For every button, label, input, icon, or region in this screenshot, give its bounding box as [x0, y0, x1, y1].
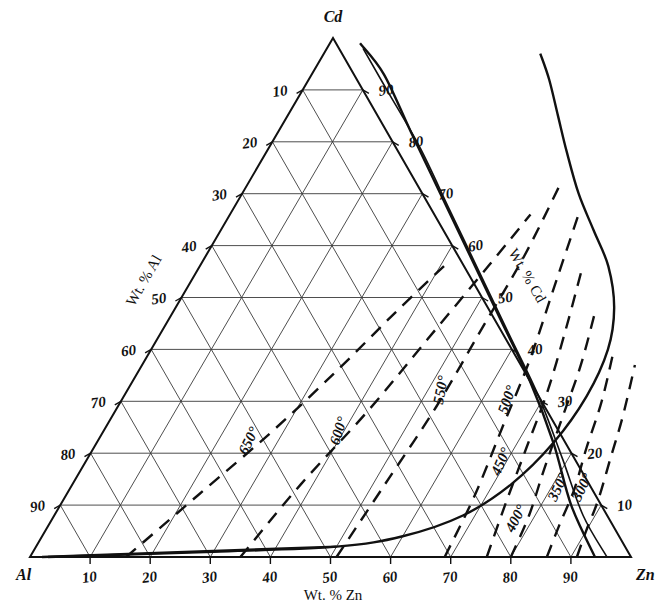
grid-lines — [60, 90, 601, 557]
isotherm-label-500: 500° — [494, 383, 519, 415]
isotherm-label-450: 450° — [487, 445, 514, 478]
vertex-label-al: Al — [15, 566, 32, 583]
tick-label-left-10: 10 — [271, 82, 289, 100]
tick-label-right-80: 80 — [407, 133, 425, 151]
tick-label-left-80: 80 — [59, 445, 77, 463]
gridline-al-50 — [182, 298, 331, 558]
tick-label-right-10: 10 — [616, 496, 634, 514]
vertex-label-cd: Cd — [324, 8, 344, 25]
isotherm-label-650: 650° — [235, 424, 262, 457]
gridline-zn-10 — [90, 90, 363, 557]
tick-label-bottom-60: 60 — [381, 568, 399, 586]
series-650-isotherm — [126, 261, 449, 557]
tick-label-right-50: 50 — [497, 289, 515, 307]
tick-label-bottom-50: 50 — [321, 568, 339, 586]
gridline-al-70 — [121, 401, 210, 557]
axis-title-bottom: Wt. % Zn — [304, 587, 363, 603]
tick-label-right-70: 70 — [437, 185, 455, 203]
tick-label-right-30: 30 — [555, 392, 574, 410]
gridline-al-90 — [60, 505, 90, 557]
isotherm-label-600: 600° — [326, 415, 350, 447]
ternary-diagram-svg: Cd Al Zn Wt. % Zn Wt. % Al Wt. % Cd 1020… — [0, 0, 666, 607]
vertex-label-zn: Zn — [635, 566, 655, 583]
tick-label-bottom-20: 20 — [140, 568, 159, 586]
gridline-al-10 — [303, 90, 571, 557]
tick-label-left-60: 60 — [120, 341, 138, 359]
series-monotectic-horizontal — [42, 547, 337, 557]
tick-label-left-90: 90 — [29, 497, 47, 515]
tick-label-bottom-70: 70 — [441, 568, 459, 586]
tick-label-bottom-10: 10 — [81, 568, 99, 586]
tick-label-bottom-90: 90 — [562, 568, 580, 586]
series-300-isotherm — [577, 365, 635, 557]
gridline-al-30 — [242, 194, 451, 557]
tick-label-left-30: 30 — [210, 186, 229, 204]
tick-label-bottom-80: 80 — [502, 568, 520, 586]
tick-label-left-40: 40 — [180, 238, 199, 256]
ternary-diagram-figure: Cd Al Zn Wt. % Zn Wt. % Al Wt. % Cd 1020… — [0, 0, 666, 607]
tick-label-bottom-30: 30 — [200, 568, 219, 586]
isotherm-label-350: 350° — [544, 471, 571, 505]
tick-label-right-90: 90 — [378, 81, 396, 99]
tick-label-left-20: 20 — [240, 134, 259, 152]
tick-marks — [54, 90, 607, 564]
isotherm-label-550: 550° — [430, 374, 451, 405]
tick-label-right-40: 40 — [526, 340, 545, 358]
tick-label-left-70: 70 — [90, 393, 108, 411]
tick-label-bottom-40: 40 — [260, 568, 279, 586]
tick-label-right-20: 20 — [585, 444, 604, 462]
tick-label-left-50: 50 — [150, 290, 168, 308]
tick-label-right-60: 60 — [467, 237, 485, 255]
tick-labels: 1020304050607080901020304050607080909080… — [29, 81, 633, 586]
gridline-zn-30 — [210, 194, 422, 557]
